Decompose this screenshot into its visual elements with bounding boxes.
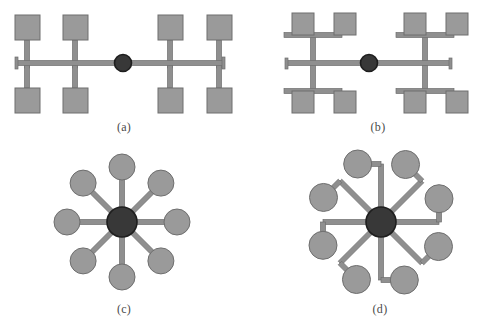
central-hub[interactable] xyxy=(115,55,132,72)
offset-star-node-3[interactable] xyxy=(425,185,453,213)
workstation-top-1[interactable] xyxy=(15,15,40,40)
figure-root: (a) (b) (c) (d) xyxy=(0,0,489,330)
workstation-top-4[interactable] xyxy=(207,15,232,40)
star-central-hub[interactable] xyxy=(107,207,137,237)
star-node-2[interactable] xyxy=(148,170,174,196)
tree-central-hub[interactable] xyxy=(361,55,378,72)
panel-b-caption: (b) xyxy=(358,120,398,135)
bus-riser-down-3 xyxy=(168,63,173,88)
offset-star-node-4[interactable] xyxy=(424,233,452,261)
workstation-top-2[interactable] xyxy=(63,15,88,40)
bus-riser-down-1 xyxy=(25,63,30,88)
offset-star-central-hub[interactable] xyxy=(366,207,396,237)
offset-star-node-7[interactable] xyxy=(309,231,337,259)
tree-workstation-bottom-2[interactable] xyxy=(334,91,356,113)
star-node-3[interactable] xyxy=(164,209,190,235)
tree-workstation-top-1[interactable] xyxy=(292,13,314,35)
panel-d-caption: (d) xyxy=(360,302,400,317)
star-node-7[interactable] xyxy=(54,209,80,235)
tree-trunk-down-1 xyxy=(311,63,316,91)
workstation-bottom-3[interactable] xyxy=(158,88,183,113)
tree-trunk-down-2 xyxy=(423,63,428,91)
workstation-bottom-1[interactable] xyxy=(15,88,40,113)
bus-terminator-right xyxy=(222,57,225,69)
workstation-top-3[interactable] xyxy=(158,15,183,40)
offset-star-node-8[interactable] xyxy=(310,183,338,211)
tree-workstation-top-3[interactable] xyxy=(404,13,426,35)
star-node-4[interactable] xyxy=(148,248,174,274)
bus-riser-down-2 xyxy=(73,63,78,88)
star-node-8[interactable] xyxy=(70,170,96,196)
offset-star-node-1[interactable] xyxy=(344,150,372,178)
workstation-bottom-4[interactable] xyxy=(207,88,232,113)
bus-riser-down-4 xyxy=(217,63,222,88)
tree-terminator-left xyxy=(285,58,288,69)
tree-workstation-top-2[interactable] xyxy=(334,13,356,35)
offset-star-node-2[interactable] xyxy=(392,151,420,179)
offset-star-node-5[interactable] xyxy=(390,266,418,294)
tree-workstation-bottom-1[interactable] xyxy=(292,91,314,113)
panel-a-caption: (a) xyxy=(104,120,144,135)
tree-terminator-right xyxy=(449,58,452,69)
topology-figure-canvas xyxy=(0,0,489,330)
panel-b-tree-topology xyxy=(284,13,468,113)
offset-star-node-6[interactable] xyxy=(342,265,370,293)
star-node-6[interactable] xyxy=(70,248,96,274)
tree-workstation-top-4[interactable] xyxy=(446,13,468,35)
bus-terminator-left xyxy=(15,57,18,69)
panel-d-offset-star-topology xyxy=(309,150,453,294)
panel-a-bus-topology xyxy=(15,15,232,113)
tree-workstation-bottom-4[interactable] xyxy=(446,91,468,113)
panel-c-star-topology xyxy=(54,154,190,290)
panel-c-caption: (c) xyxy=(104,302,144,317)
tree-workstation-bottom-3[interactable] xyxy=(404,91,426,113)
star-node-5[interactable] xyxy=(109,264,135,290)
workstation-bottom-2[interactable] xyxy=(63,88,88,113)
star-node-1[interactable] xyxy=(109,154,135,180)
